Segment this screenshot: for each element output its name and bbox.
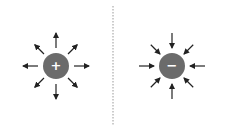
field-lines-canvas — [0, 0, 227, 130]
field-arrow-icon — [35, 78, 44, 87]
electric-field-diagram: + − — [0, 0, 227, 130]
field-arrow-icon — [68, 45, 77, 54]
negative-sign: − — [159, 53, 185, 79]
field-arrow-icon — [184, 45, 193, 54]
field-arrow-icon — [184, 78, 193, 87]
field-arrow-icon — [68, 78, 77, 87]
positive-sign: + — [43, 53, 69, 79]
field-arrow-icon — [151, 78, 160, 87]
